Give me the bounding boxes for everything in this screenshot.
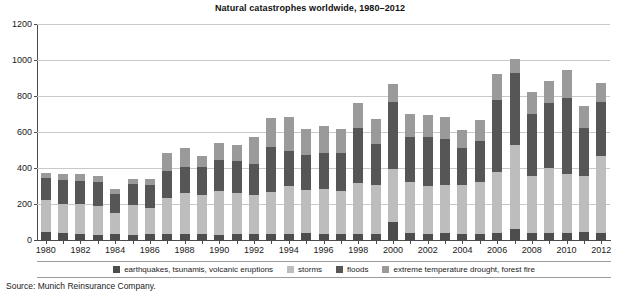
bar-1983[interactable] bbox=[93, 176, 103, 240]
x-tick-mark bbox=[115, 241, 116, 244]
bar-segment bbox=[41, 200, 51, 232]
bar-1997[interactable] bbox=[336, 129, 346, 240]
bar-segment bbox=[510, 73, 520, 145]
legend-item[interactable]: storms bbox=[287, 265, 322, 274]
x-tick-label: 2006 bbox=[487, 245, 507, 255]
bar-segment bbox=[180, 234, 190, 240]
bar-2010[interactable] bbox=[562, 70, 572, 240]
bar-segment bbox=[371, 119, 381, 144]
bar-1989[interactable] bbox=[197, 156, 207, 240]
legend-item[interactable]: floods bbox=[336, 265, 368, 274]
bar-2009[interactable] bbox=[544, 81, 554, 240]
x-tick-mark bbox=[532, 241, 533, 244]
bar-segment bbox=[336, 191, 346, 233]
bar-2011[interactable] bbox=[579, 106, 589, 240]
bar-1990[interactable] bbox=[214, 143, 224, 240]
bar-1985[interactable] bbox=[128, 179, 138, 240]
bar-segment bbox=[41, 232, 51, 240]
x-tick-mark bbox=[410, 241, 411, 244]
bar-1993[interactable] bbox=[266, 118, 276, 240]
bar-2005[interactable] bbox=[475, 120, 485, 240]
source-note: Source: Munich Reinsurance Company. bbox=[6, 281, 156, 291]
bar-segment bbox=[510, 145, 520, 230]
x-tick-mark bbox=[515, 241, 516, 244]
bar-segment bbox=[388, 102, 398, 169]
bar-1996[interactable] bbox=[319, 126, 329, 240]
bar-2007[interactable] bbox=[510, 59, 520, 240]
bar-segment bbox=[510, 229, 520, 240]
x-tick-mark bbox=[80, 241, 81, 244]
x-axis-ticks: 1980198219841986198819901992199419961998… bbox=[37, 241, 611, 259]
bar-segment bbox=[319, 234, 329, 240]
bar-segment bbox=[457, 130, 467, 148]
bar-1999[interactable] bbox=[371, 119, 381, 240]
bar-1987[interactable] bbox=[162, 153, 172, 240]
bar-segment bbox=[232, 234, 242, 240]
bar-segment bbox=[388, 84, 398, 102]
legend-item[interactable]: extreme temperature drought, forest fire bbox=[382, 265, 534, 274]
bar-segment bbox=[162, 234, 172, 240]
bar-segment bbox=[58, 204, 68, 233]
x-tick-label: 1984 bbox=[105, 245, 125, 255]
legend-swatch-icon bbox=[336, 266, 343, 273]
x-tick-label: 2004 bbox=[452, 245, 472, 255]
bar-segment bbox=[301, 155, 311, 190]
x-tick-mark bbox=[584, 241, 585, 244]
bar-segment bbox=[284, 186, 294, 234]
legend-swatch-icon bbox=[113, 266, 120, 273]
bar-1988[interactable] bbox=[180, 148, 190, 240]
bar-2003[interactable] bbox=[440, 117, 450, 240]
bar-segment bbox=[596, 102, 606, 156]
x-tick-mark bbox=[393, 241, 394, 244]
x-tick-mark bbox=[341, 241, 342, 244]
bar-segment bbox=[544, 103, 554, 168]
bar-segment bbox=[162, 171, 172, 198]
bar-segment bbox=[371, 144, 381, 185]
bar-1992[interactable] bbox=[249, 137, 259, 240]
bar-2000[interactable] bbox=[388, 84, 398, 240]
bar-segment bbox=[232, 193, 242, 234]
bar-1986[interactable] bbox=[145, 179, 155, 240]
bar-segment bbox=[58, 180, 68, 204]
bar-segment bbox=[457, 234, 467, 240]
x-tick-mark bbox=[63, 241, 64, 244]
bar-1998[interactable] bbox=[353, 103, 363, 240]
bar-2008[interactable] bbox=[527, 92, 537, 240]
bar-segment bbox=[579, 176, 589, 232]
bar-segment bbox=[336, 129, 346, 152]
bar-2004[interactable] bbox=[457, 130, 467, 240]
bar-2012[interactable] bbox=[596, 83, 606, 240]
bar-segment bbox=[388, 169, 398, 222]
bar-1984[interactable] bbox=[110, 189, 120, 240]
bar-1981[interactable] bbox=[58, 174, 68, 240]
bar-2001[interactable] bbox=[405, 114, 415, 240]
x-tick-mark bbox=[46, 241, 47, 244]
bar-segment bbox=[266, 147, 276, 192]
bar-2002[interactable] bbox=[423, 115, 433, 240]
bar-segment bbox=[319, 126, 329, 153]
bar-segment bbox=[562, 233, 572, 240]
bar-segment bbox=[579, 106, 589, 128]
bar-2006[interactable] bbox=[492, 74, 502, 240]
legend-label: floods bbox=[347, 265, 368, 274]
legend-item[interactable]: earthquakes, tsunamis, volcanic eruption… bbox=[113, 265, 273, 274]
bar-segment bbox=[93, 182, 103, 205]
bar-1995[interactable] bbox=[301, 129, 311, 240]
bar-segment bbox=[544, 81, 554, 104]
y-tick-label: 800 bbox=[17, 91, 37, 101]
bar-segment bbox=[492, 100, 502, 172]
bar-segment bbox=[527, 176, 537, 233]
x-tick-mark bbox=[202, 241, 203, 244]
bar-segment bbox=[405, 114, 415, 137]
bar-1980[interactable] bbox=[41, 173, 51, 240]
bar-segment bbox=[319, 189, 329, 234]
bar-1991[interactable] bbox=[232, 145, 242, 240]
x-tick-label: 2008 bbox=[522, 245, 542, 255]
bar-segment bbox=[562, 98, 572, 175]
bar-1982[interactable] bbox=[75, 174, 85, 240]
bar-1994[interactable] bbox=[284, 117, 294, 240]
chart-legend: earthquakes, tsunamis, volcanic eruption… bbox=[37, 261, 611, 278]
x-tick-label: 1998 bbox=[348, 245, 368, 255]
bar-segment bbox=[423, 186, 433, 234]
chart-title: Natural catastrophes worldwide, 1980–201… bbox=[0, 3, 620, 13]
